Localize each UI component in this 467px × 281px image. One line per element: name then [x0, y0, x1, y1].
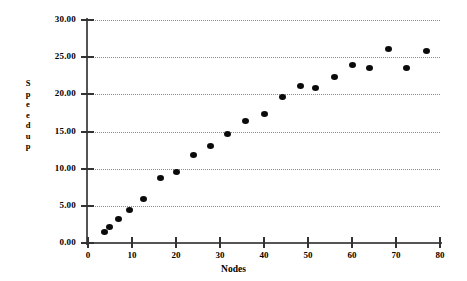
x-axis-title: Nodes: [0, 264, 467, 274]
x-axis-tick-label: 60: [332, 250, 372, 260]
y-axis-tick: [81, 93, 94, 95]
y-axis-title-letter: e: [22, 99, 34, 110]
scatter-chart: 0.005.0010.0015.0020.0025.0030.00 010203…: [0, 0, 467, 281]
y-axis-title-letter: u: [22, 131, 34, 142]
y-axis-title: Speedup: [22, 78, 34, 152]
x-axis-tick-label: 0: [68, 250, 108, 260]
y-axis-title-letter: d: [22, 120, 34, 131]
y-axis-tick: [81, 205, 94, 207]
y-axis-title-letter: p: [22, 89, 34, 100]
y-axis-tick-label: 25.00: [28, 51, 76, 61]
y-axis-tick-label: 0.00: [28, 237, 76, 247]
y-axis-tick: [81, 56, 94, 58]
y-axis-title-letter: S: [22, 78, 34, 89]
y-axis-tick-label: 30.00: [28, 14, 76, 24]
x-axis-tick-label: 40: [244, 250, 284, 260]
x-axis-tick: [87, 237, 89, 248]
data-point: [140, 196, 147, 202]
data-point: [173, 169, 180, 175]
gridline-horizontal: [88, 57, 440, 58]
x-axis-tick-label: 50: [288, 250, 328, 260]
data-point: [385, 46, 392, 52]
x-axis-tick-label: 80: [420, 250, 460, 260]
x-axis-tick: [439, 237, 441, 248]
x-axis-tick-label: 20: [156, 250, 196, 260]
x-axis-tick: [219, 237, 221, 248]
x-axis-tick-label: 70: [376, 250, 416, 260]
y-axis-tick-label: 20.00: [28, 88, 76, 98]
x-axis-tick-label: 10: [112, 250, 152, 260]
y-axis-tick: [81, 19, 94, 21]
y-axis-tick-label: 5.00: [28, 200, 76, 210]
data-point: [349, 62, 356, 68]
data-point: [101, 229, 108, 235]
y-axis-title-letter: p: [22, 141, 34, 152]
data-point: [366, 65, 373, 71]
gridline-horizontal: [88, 94, 440, 95]
x-axis-tick: [307, 237, 309, 248]
data-point: [261, 111, 268, 117]
y-axis-tick-label: 15.00: [28, 126, 76, 136]
gridline-horizontal: [88, 206, 440, 207]
x-axis-tick: [351, 237, 353, 248]
y-axis-title-letter: e: [22, 110, 34, 121]
gridline-horizontal: [88, 169, 440, 170]
gridline-horizontal: [88, 20, 440, 21]
x-axis-tick: [131, 237, 133, 248]
y-axis-tick-label: 10.00: [28, 163, 76, 173]
data-point: [403, 65, 410, 71]
gridline-horizontal: [88, 132, 440, 133]
x-axis-tick: [175, 237, 177, 248]
x-axis-tick-label: 30: [200, 250, 240, 260]
y-axis-tick: [81, 168, 94, 170]
plot-area: [88, 20, 440, 243]
y-axis-tick: [81, 131, 94, 133]
x-axis-tick: [395, 237, 397, 248]
x-axis-tick: [263, 237, 265, 248]
